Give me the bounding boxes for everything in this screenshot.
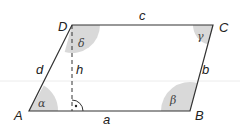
height-label-h: h [76, 62, 83, 77]
vertex-label-c: C [219, 20, 229, 35]
vertex-label-a: A [13, 108, 23, 123]
side-label-b: b [202, 62, 209, 77]
angle-beta-sector [161, 82, 198, 111]
vertex-label-b: B [195, 108, 204, 123]
side-label-a: a [103, 112, 110, 127]
angle-label-alpha: α [38, 97, 46, 110]
parallelogram-diagram: A B C D a b c d h α β γ δ [0, 0, 240, 128]
right-angle-marker [72, 100, 83, 111]
side-label-c: c [139, 8, 146, 23]
angle-label-delta: δ [78, 37, 85, 50]
side-label-d: d [36, 62, 44, 77]
angle-label-beta: β [169, 94, 176, 107]
angle-label-gamma: γ [197, 30, 204, 43]
right-angle-dot [75, 105, 77, 107]
vertex-label-d: D [58, 19, 67, 34]
